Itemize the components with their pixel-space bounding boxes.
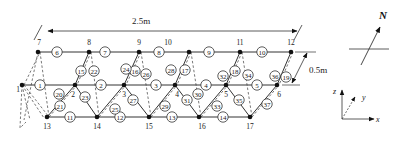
node-dot: [248, 115, 253, 120]
node: 6: [275, 83, 281, 99]
member-number: 19: [283, 74, 291, 82]
member-number: 29: [162, 103, 170, 111]
node-number: 17: [246, 122, 254, 131]
truss-svg: 2.5m 0.5m 123456789101112131415161718192…: [0, 0, 407, 141]
x-axis-label: x: [375, 115, 380, 124]
node-number: 9: [137, 38, 141, 47]
node-number: 16: [198, 122, 206, 131]
member-label: 11: [65, 112, 75, 122]
member-number: 35: [236, 97, 244, 105]
z-axis-label: z: [332, 87, 337, 96]
member-label: 19: [281, 72, 291, 82]
node-number: 3: [122, 90, 126, 99]
axes-icon: z y x: [332, 87, 380, 124]
member-number: 12: [117, 114, 125, 122]
node-number: 4: [175, 90, 179, 99]
truss-diagram: 2.5m 0.5m 123456789101112131415161718192…: [0, 0, 407, 141]
member-label: 33: [212, 101, 222, 111]
member-label: 26: [141, 69, 151, 79]
member-number: 33: [214, 103, 222, 111]
member-number: 30: [195, 91, 203, 99]
node-number: 15: [145, 122, 153, 131]
member-number: 5: [255, 82, 259, 90]
member-number: 28: [168, 67, 176, 75]
member-number: 17: [182, 67, 190, 75]
north-arrow-icon: N: [349, 9, 389, 65]
member-number: 14: [220, 114, 228, 122]
member-label: 22: [89, 66, 99, 76]
member-number: 2: [99, 82, 103, 90]
member-number: 3: [154, 82, 158, 90]
member-number: 31: [184, 97, 192, 105]
member-label: 27: [128, 95, 138, 105]
member-number: 36: [272, 73, 280, 81]
node-dot: [73, 83, 78, 88]
member-number: 8: [157, 49, 161, 57]
member-label: 29: [160, 101, 170, 111]
member-label: 9: [204, 47, 214, 57]
y-axis-label: y: [361, 93, 366, 102]
member-label: 30: [193, 89, 203, 99]
member-label: 20: [54, 89, 64, 99]
member-label: 15: [76, 66, 86, 76]
node-dot: [95, 115, 100, 120]
node-number: 11: [236, 38, 243, 47]
node-dot: [238, 50, 243, 55]
member-label: 35: [234, 95, 244, 105]
member-label: 16: [130, 66, 140, 76]
member-number: 37: [264, 101, 272, 109]
node-number: 7: [37, 38, 41, 47]
member-number: 24: [123, 66, 131, 74]
member-number: 4: [204, 82, 208, 90]
member-number: 32: [220, 73, 228, 81]
member-number: 16: [132, 68, 140, 76]
member-label: 5: [252, 80, 262, 90]
member-label: 37: [262, 99, 272, 109]
node-number: 10: [164, 38, 172, 47]
node-dot: [173, 83, 178, 88]
node-number: 1: [16, 85, 20, 94]
member-number: 20: [56, 91, 64, 99]
node-dot: [224, 83, 229, 88]
member-number: 10: [259, 49, 267, 57]
member-label: 2: [96, 80, 106, 90]
length-dimension: 2.5m: [34, 16, 302, 40]
member-number: 26: [143, 71, 151, 79]
member-label: 3: [151, 80, 161, 90]
member-number: 22: [91, 68, 99, 76]
node: 5: [224, 83, 229, 99]
member-number: 34: [245, 72, 253, 80]
member-number: 1: [38, 82, 42, 90]
node-number: 13: [43, 122, 51, 131]
node-number: 6: [277, 90, 281, 99]
member-label: 32: [218, 71, 228, 81]
member-number: 7: [103, 49, 107, 57]
node: 9: [137, 38, 142, 54]
member-number: 9: [207, 49, 211, 57]
member-number: 11: [67, 114, 74, 122]
member-number: 27: [130, 97, 138, 105]
node-number: 12: [287, 38, 295, 47]
member-label: 13: [167, 112, 177, 122]
node-dot: [289, 50, 294, 55]
node-dot: [87, 50, 92, 55]
north-label: N: [378, 9, 388, 21]
member-label: 31: [182, 95, 192, 105]
member-label: 4: [201, 80, 211, 90]
member-number: 15: [78, 68, 86, 76]
node-number: 2: [71, 90, 75, 99]
node: 1: [16, 83, 24, 94]
node-dot: [137, 50, 142, 55]
member-number: 6: [55, 49, 59, 57]
member-label: 18: [230, 66, 240, 76]
member-label: 17: [180, 65, 190, 75]
node-number: 5: [224, 90, 228, 99]
member-label: 36: [270, 71, 280, 81]
member-label: 21: [55, 101, 65, 111]
member-number: 18: [232, 68, 240, 76]
member-number: 25: [112, 106, 120, 114]
member-label: 23: [80, 92, 90, 102]
member-number: 13: [169, 114, 177, 122]
node-number: 8: [87, 38, 91, 47]
member-number: 23: [82, 94, 90, 102]
